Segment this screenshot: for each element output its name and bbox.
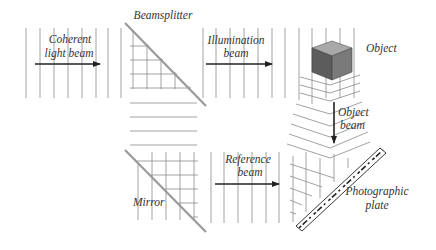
- reference-beam-label-2: beam: [238, 166, 263, 178]
- beamsplitter-label: Beamsplitter: [134, 9, 193, 22]
- illumination-beam-label-2: beam: [224, 47, 249, 59]
- holography-diagram: Coherent light beam Beamsplitter Illumin…: [0, 0, 436, 250]
- coherent-beam-label: Coherent: [49, 33, 92, 45]
- object-label: Object: [366, 42, 397, 55]
- object-cube: [312, 41, 352, 80]
- coherent-beam-label-2: light beam: [45, 47, 94, 60]
- illumination-beam-label: Illumination: [207, 34, 265, 46]
- object-beam-label: Object: [338, 106, 369, 119]
- beamsplitter: [125, 23, 206, 106]
- mirror-label: Mirror: [132, 196, 165, 208]
- reference-beam-label: Reference: [224, 153, 271, 166]
- mirror-grid: [137, 152, 198, 220]
- object-beam-label-2: beam: [340, 119, 365, 131]
- photographic-plate-label-2: plate: [365, 199, 389, 212]
- photographic-plate-label: Photographic: [344, 185, 408, 198]
